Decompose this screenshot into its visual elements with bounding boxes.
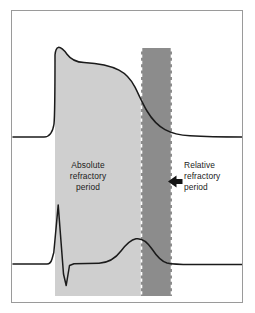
- relative-label-line-1: Relative: [184, 160, 240, 171]
- relative-label-line-2: refractory: [184, 171, 240, 182]
- plot-area: [0, 0, 255, 313]
- absolute-label-line-3: period: [60, 182, 116, 193]
- absolute-label-line-2: refractory: [60, 171, 116, 182]
- relative-refractory-period-label: Relative refractory period: [184, 160, 240, 193]
- relative-refractory-region: [141, 48, 172, 296]
- absolute-label-line-1: Absolute: [60, 160, 116, 171]
- absolute-refractory-period-label: Absolute refractory period: [60, 160, 116, 193]
- relative-label-line-3: period: [184, 182, 240, 193]
- refractory-period-diagram: Absolute refractory period Relative refr…: [0, 0, 255, 313]
